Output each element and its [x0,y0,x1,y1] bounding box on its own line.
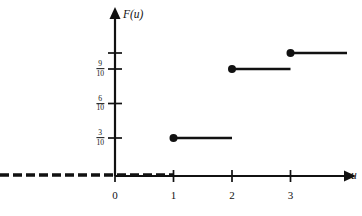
y-tick-label-6-10: 6 10 [96,95,104,113]
jump-point-1 [170,134,178,142]
y-axis-label: F(u) [123,9,143,21]
fraction-denominator: 10 [96,104,104,112]
x-tick-label-0: 0 [112,190,118,201]
y-tick-label-9-10: 9 10 [96,60,104,78]
y-axis-arrowhead [110,7,121,19]
cdf-step-figure: F(u) u 0 1 2 3 3 10 6 10 9 10 [0,0,362,216]
fraction-numerator: 6 [96,95,104,104]
x-axis-label: u [351,170,357,182]
x-tick-label-3: 3 [288,190,294,201]
jump-point-3 [287,49,295,57]
fraction-numerator: 3 [96,129,104,138]
jump-point-2 [228,65,236,73]
plot-canvas [0,0,362,216]
x-tick-label-2: 2 [229,190,235,201]
fraction-numerator: 9 [96,60,104,69]
fraction-denominator: 10 [96,139,104,147]
x-tick-label-1: 1 [171,190,177,201]
fraction-denominator: 10 [96,70,104,78]
y-tick-label-3-10: 3 10 [96,129,104,147]
